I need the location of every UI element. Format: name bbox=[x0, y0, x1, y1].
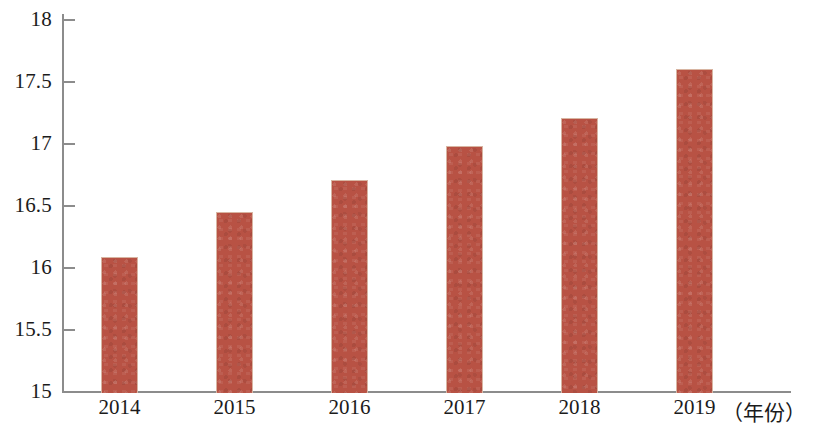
x-axis-tick-label: 2015 bbox=[195, 396, 275, 419]
bar bbox=[561, 118, 598, 393]
x-axis-tick-label: 2017 bbox=[425, 396, 505, 419]
x-axis-title: （年份） bbox=[722, 396, 806, 426]
bar-series bbox=[62, 14, 790, 392]
y-axis-tick-label: 18 bbox=[0, 9, 52, 30]
bar bbox=[216, 212, 253, 393]
bar bbox=[676, 69, 713, 393]
y-axis-tick-label: 17.5 bbox=[0, 71, 52, 92]
x-axis-tick-label: 2014 bbox=[80, 396, 160, 419]
y-axis-tick-label: 15.5 bbox=[0, 319, 52, 340]
x-axis-tick-label: 2016 bbox=[310, 396, 390, 419]
y-axis-tick-label: 17 bbox=[0, 133, 52, 154]
bar bbox=[101, 257, 138, 393]
y-axis-tick-label: 16 bbox=[0, 257, 52, 278]
y-axis-tick-label: 16.5 bbox=[0, 195, 52, 216]
x-axis-tick-label: 2018 bbox=[540, 396, 620, 419]
y-axis-tick-label: 15 bbox=[0, 381, 52, 402]
bar bbox=[331, 180, 368, 393]
bar bbox=[446, 146, 483, 393]
